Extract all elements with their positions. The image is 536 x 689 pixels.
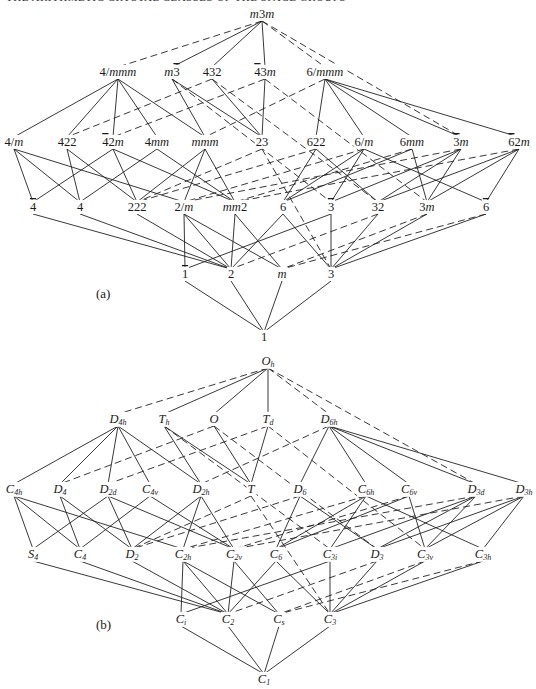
- node-D4h: D4h: [107, 412, 127, 427]
- edge-D3h-to-D3: [377, 496, 524, 549]
- node-label: 6: [483, 200, 489, 214]
- node-label: 4/mmm: [100, 65, 137, 79]
- node-C3h: C3h: [474, 547, 492, 562]
- node-label: 32: [372, 200, 385, 214]
- panel-b-nodes: OhD4hThOTdD6hC4hD4D2dC4vD2hTD6C6hC6vD3dD…: [5, 354, 534, 687]
- edge--42m-to-mm2: [113, 149, 235, 202]
- node-label: 432: [203, 65, 222, 79]
- node-D2: D2: [123, 547, 139, 562]
- node--6: 6: [482, 200, 490, 214]
- edge-2/m-to--1: [184, 214, 185, 269]
- edge-622-to-222: [137, 149, 316, 202]
- node-2/m: 2/m: [174, 200, 195, 214]
- edge-D4h-to-C4h: [14, 426, 118, 484]
- node-O: O: [208, 412, 219, 426]
- edge-3m-to-3: [331, 214, 427, 269]
- node-label: 4mm: [145, 135, 169, 149]
- node-label: 3: [328, 200, 334, 214]
- node-4/m: 4/m: [4, 135, 25, 149]
- node-4mm: 4mm: [144, 135, 170, 149]
- node-label: 3: [328, 267, 334, 281]
- edge-6mm-to-mm2: [235, 149, 412, 202]
- edge-23-to-222: [137, 149, 262, 202]
- node-D4: D4: [51, 482, 67, 497]
- edge-4/mmm-to--42m: [113, 79, 118, 137]
- edge-C3-to-C1: [264, 626, 330, 674]
- edge-4mm-to-4: [80, 149, 157, 202]
- node-Th: Th: [158, 412, 171, 427]
- edge-6/mmm-to--3m: [325, 79, 461, 137]
- edge-O-to-T: [214, 426, 251, 484]
- node-label: 1: [261, 330, 267, 344]
- node-4: 4: [76, 200, 85, 214]
- node-32: 32: [371, 200, 386, 214]
- node-6: 6: [279, 200, 287, 214]
- node-D3: D3: [368, 547, 384, 562]
- node-label: m3: [164, 65, 179, 79]
- node-D6h: D6h: [318, 412, 338, 427]
- edge-D2h-to-D2: [132, 496, 201, 549]
- edge-4mm-to-mm2: [157, 149, 235, 202]
- edge-2-to-1: [231, 281, 264, 332]
- edge-m3m-to-4/mmm: [118, 21, 262, 67]
- node-Ci: Ci: [175, 612, 188, 627]
- node-S4: S4: [27, 547, 39, 562]
- edge-4/mmm-to-4mm: [118, 79, 157, 137]
- node-D2d: D2d: [97, 482, 118, 497]
- edge-4/mmm-to-422: [67, 79, 118, 137]
- node-C2: C2: [221, 612, 235, 627]
- edge--62m-to--6: [486, 149, 519, 202]
- node-label: 2/m: [175, 200, 194, 214]
- edge-D2h-to-C2v: [201, 496, 234, 549]
- node-3: 3: [327, 267, 335, 281]
- edge-32-to-2: [231, 214, 378, 269]
- edge-D2h-to-C2h: [183, 496, 201, 549]
- edge-D2-to-C2: [132, 561, 228, 614]
- node-label: 3m: [453, 135, 468, 149]
- node-Oh: Oh: [260, 354, 275, 369]
- node--4: 4: [29, 200, 38, 214]
- edge-C3i-to-Ci: [181, 561, 330, 614]
- edge-D2d-to-D2: [108, 496, 132, 549]
- node-432: 432: [202, 65, 223, 79]
- node-C2h: C2h: [174, 547, 192, 562]
- panel-b-schoenflies-lattice: OhD4hThOTdD6hC4hD4D2dC4vD2hTD6C6hC6vD3dD…: [5, 354, 534, 687]
- node-label: O: [209, 412, 218, 426]
- node-mmm: mmm: [190, 135, 219, 149]
- node-D3h: D3h: [513, 482, 533, 497]
- edge-Oh-to-O: [214, 368, 268, 414]
- node-label: 6/mmm: [307, 65, 344, 79]
- edge-422-to-222: [67, 149, 137, 202]
- node--42m: 42m: [101, 135, 125, 149]
- edge-432-to-23: [212, 79, 262, 137]
- node-C3v: C3v: [416, 547, 434, 562]
- edge-6/mmm-to-622: [316, 79, 325, 137]
- edge-T-to-C3: [251, 496, 330, 614]
- node-C2v: C2v: [225, 547, 243, 562]
- edge-C3v-to-C3: [330, 561, 425, 614]
- node-C6: C6: [269, 547, 283, 562]
- node-label: 62m: [508, 135, 530, 149]
- node--3m: 3m: [452, 135, 469, 149]
- edge--42m-to--4: [33, 149, 113, 202]
- edge-C6v-to-C3v: [409, 496, 425, 549]
- node-label: 622: [307, 135, 326, 149]
- node-222: 222: [127, 200, 148, 214]
- edge-C6-to-C2: [228, 561, 276, 614]
- edge--6-to-m: [282, 214, 486, 269]
- node-C3i: C3i: [322, 547, 339, 562]
- edge-m3-to-23: [172, 79, 262, 137]
- panel-label-a: (a): [96, 286, 110, 302]
- edge--4-to-2: [33, 214, 231, 269]
- node-6/mmm: 6/mmm: [306, 65, 345, 79]
- node-label: 4: [77, 200, 84, 214]
- edge-4/m-to-2/m: [14, 149, 184, 202]
- node-m: m: [276, 267, 287, 281]
- subgroup-lattice-diagram: m3m4/mmmm343243m6/mmm4/m42242m4mmmmm2362…: [0, 0, 536, 689]
- edge-6/m-to-2/m: [184, 149, 364, 202]
- edge-m3m-to-432: [212, 21, 262, 67]
- node-label: 6: [280, 200, 286, 214]
- edge-4/mmm-to-4/m: [14, 79, 118, 137]
- node-label: 1: [182, 267, 188, 281]
- node-label: T: [248, 482, 256, 496]
